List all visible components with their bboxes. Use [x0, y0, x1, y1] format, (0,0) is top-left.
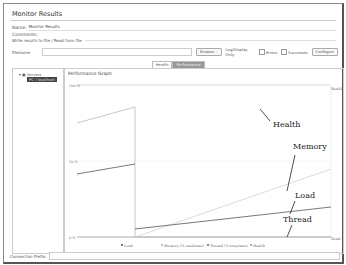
- right-label-healthy: Healthy: [331, 87, 343, 91]
- graph-canvas: 100 % 50 % 0 % Healthy Dead Health Memor…: [65, 69, 343, 253]
- legend-load: Load: [124, 244, 134, 248]
- name-input[interactable]: Monitor Results: [29, 24, 336, 31]
- collapse-icon[interactable]: ▾ ▣: [19, 72, 27, 77]
- annotation-thread: Thread: [283, 215, 312, 224]
- y-label-mid: 50 %: [69, 160, 79, 164]
- legend-health: Health: [253, 244, 266, 248]
- comments-label: Comments:: [12, 32, 38, 37]
- errors-label: Errors: [266, 50, 277, 55]
- panel-title: Monitor Results: [12, 10, 62, 18]
- successes-label: Successes: [288, 50, 308, 55]
- log-display-only-label[interactable]: Log/Display Only: [226, 47, 257, 57]
- y-label-top: 100 %: [69, 84, 81, 88]
- file-section-row: Write results to file / Read from file: [12, 38, 336, 43]
- browse-button[interactable]: Browse...: [196, 48, 221, 56]
- annotation-load: Load: [295, 191, 315, 200]
- filename-row: Filename Browse... Log/Display Only Erro…: [12, 47, 338, 57]
- performance-graph: Performance Graph 100 % 50 % 0 % Healthy…: [64, 68, 344, 254]
- divider: [10, 20, 336, 21]
- legend-thread: Thread (% busy/max): [210, 244, 248, 248]
- legend-memory: Memory (% used/max): [164, 244, 205, 248]
- errors-checkbox[interactable]: [259, 49, 265, 55]
- filename-label: Filename: [12, 50, 30, 55]
- right-label-dead: Dead: [331, 237, 341, 241]
- connection-prefix-label: Connection Prefix:: [10, 254, 47, 259]
- name-label: Name:: [12, 25, 27, 30]
- monitor-results-panel: Monitor Results Name: Monitor Results Co…: [3, 3, 344, 264]
- annotation-memory: Memory: [293, 142, 327, 151]
- annotation-health: Health: [273, 120, 300, 129]
- y-label-bottom: 0 %: [69, 236, 76, 240]
- divider: [85, 40, 336, 41]
- comments-row: Comments:: [12, 32, 38, 37]
- server-tree: ▾ ▣ Servers PC / localhost: [12, 68, 64, 254]
- configure-button[interactable]: Configure: [312, 48, 338, 56]
- tree-item-localhost[interactable]: PC / localhost: [27, 77, 57, 82]
- name-row: Name: Monitor Results: [12, 24, 336, 31]
- file-section-label: Write results to file / Read from file: [12, 38, 82, 43]
- filename-input[interactable]: [42, 48, 192, 56]
- successes-checkbox[interactable]: [281, 49, 287, 55]
- connection-prefix-row: Connection Prefix:: [10, 252, 340, 260]
- connection-prefix-input[interactable]: [49, 252, 341, 260]
